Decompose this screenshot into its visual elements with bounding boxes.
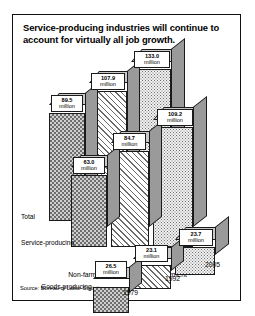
year-label-1979: 1979 — [123, 289, 138, 296]
callout-unit: million — [93, 81, 123, 87]
callout-unit: million — [159, 117, 191, 123]
callout-unit: million — [137, 253, 166, 259]
chart-title: Service-producing industries will contin… — [23, 22, 231, 45]
category-label-goods: Goods-producing — [41, 283, 92, 290]
callout-goods-1979: 26.5 million — [95, 261, 127, 278]
callout-total-1979: 89.5 million — [51, 95, 83, 112]
callout-unit: million — [75, 165, 103, 171]
chart-frame: Service-producing industries will contin… — [12, 14, 241, 301]
category-label-total: Total — [21, 213, 35, 220]
callout-unit: million — [97, 269, 125, 275]
callout-service-1992: 84.7 million — [113, 133, 146, 150]
callout-unit: million — [53, 103, 81, 109]
callout-unit: million — [115, 141, 144, 147]
callout-unit: million — [181, 237, 211, 243]
year-label-2005: 2005 — [205, 261, 220, 268]
year-label-1992: 1992 — [165, 275, 180, 282]
callout-goods-1992: 23.1 million — [135, 245, 168, 262]
callout-total-2005: 133.0 million — [134, 51, 170, 68]
callout-service-2005: 109.2 million — [157, 109, 193, 126]
callout-unit: million — [136, 59, 168, 65]
callout-total-1992: 107.9 million — [91, 73, 125, 90]
plot-area: 133.0 million 107.9 million 89.5 m — [13, 49, 242, 267]
figure-root: Service-producing industries will contin… — [0, 0, 255, 316]
callout-goods-2005: 23.7 million — [179, 229, 213, 246]
category-label-service: Service-producing — [21, 239, 74, 246]
callout-service-1979: 63.0 million — [73, 157, 105, 174]
